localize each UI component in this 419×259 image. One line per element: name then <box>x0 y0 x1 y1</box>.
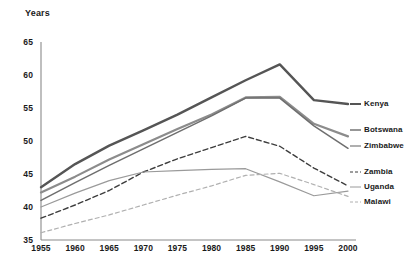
legend-label-zambia: Zambia <box>364 167 393 176</box>
x-tick-1975: 1975 <box>160 243 194 253</box>
y-tick-65: 65 <box>11 37 33 47</box>
series-line-malawi <box>41 173 348 232</box>
life-expectancy-line-chart: Years 35404550556065 1955196019651970197… <box>0 0 419 259</box>
y-tick-60: 60 <box>11 70 33 80</box>
y-tick-50: 50 <box>11 136 33 146</box>
legend-label-botswana: Botswana <box>364 125 403 134</box>
y-tick-40: 40 <box>11 202 33 212</box>
x-tick-1960: 1960 <box>58 243 92 253</box>
series-line-uganda <box>41 169 348 207</box>
x-tick-1955: 1955 <box>24 243 58 253</box>
series-line-kenya <box>41 64 348 187</box>
legend-label-malawi: Malawi <box>364 197 391 206</box>
legend-label-kenya: Kenya <box>364 99 389 108</box>
chart-canvas <box>0 0 419 259</box>
x-tick-1980: 1980 <box>195 243 229 253</box>
x-tick-1995: 1995 <box>297 243 331 253</box>
x-tick-2000: 2000 <box>331 243 365 253</box>
y-tick-55: 55 <box>11 103 33 113</box>
legend-label-uganda: Uganda <box>364 182 394 191</box>
x-tick-1985: 1985 <box>229 243 263 253</box>
x-tick-1990: 1990 <box>263 243 297 253</box>
x-tick-1965: 1965 <box>92 243 126 253</box>
y-tick-45: 45 <box>11 169 33 179</box>
legend-label-zimbabwe: Zimbabwe <box>364 141 404 150</box>
x-tick-1970: 1970 <box>126 243 160 253</box>
series-line-botswana <box>41 97 348 193</box>
